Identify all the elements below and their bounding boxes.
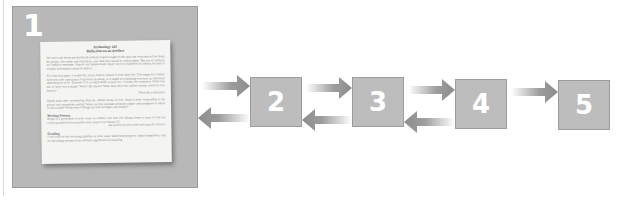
arrow-1-to-2 [202, 75, 250, 97]
connector-arrows [0, 0, 617, 204]
arrow-2-to-3 [306, 77, 352, 99]
arrow-3-to-2 [302, 109, 352, 131]
step-2-number: 2 [251, 86, 301, 118]
step-3-box: 3 [352, 77, 404, 127]
step-2-box: 2 [250, 77, 302, 127]
arrow-4-to-3 [404, 111, 455, 133]
step-4-number: 4 [456, 88, 506, 120]
step-5-number: 5 [559, 89, 609, 121]
step-5-box: 5 [558, 80, 610, 130]
step-4-box: 4 [455, 79, 507, 129]
step-3-number: 3 [353, 86, 403, 118]
arrow-2-to-1 [198, 107, 250, 129]
arrow-4-to-5 [511, 81, 558, 103]
arrow-3-to-4 [408, 79, 455, 101]
